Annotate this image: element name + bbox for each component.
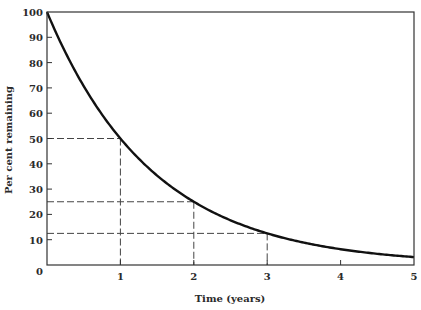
y-tick-label: 20: [29, 209, 43, 220]
y-tick-label: 30: [29, 184, 43, 195]
y-tick-label: 100: [22, 7, 43, 18]
y-tick-label: 40: [29, 159, 43, 170]
y-tick-label: 90: [29, 32, 43, 43]
x-tick-label: 5: [411, 271, 418, 282]
y-tick-label: 0: [36, 266, 43, 277]
decay-curve: [47, 12, 414, 257]
x-tick-label: 2: [190, 271, 197, 282]
y-tick-label: 80: [29, 58, 43, 69]
y-tick-label: 10: [29, 235, 43, 246]
y-tick-label: 70: [29, 83, 43, 94]
x-tick-label: 3: [264, 271, 271, 282]
x-tick-label: 4: [337, 271, 344, 282]
half-life-guides: [47, 139, 267, 266]
y-tick-label: 60: [29, 108, 43, 119]
y-tick-label: 50: [29, 134, 43, 145]
x-axis-title: Time (years): [195, 293, 266, 304]
x-tick-label: 1: [117, 271, 124, 282]
x-axis-ticks: 12345: [117, 260, 418, 282]
decay-chart: 0102030405060708090100 12345 Time (years…: [0, 0, 421, 310]
y-axis-title: Per cent remaining: [3, 86, 14, 194]
